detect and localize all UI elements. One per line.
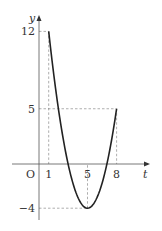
y-tick-labels: 125−4 <box>19 25 35 215</box>
x-axis-label: t <box>143 168 148 181</box>
y-tick-label: −4 <box>19 202 35 215</box>
x-axis-arrow-icon <box>144 162 150 167</box>
x-tick-label: 5 <box>84 168 91 181</box>
x-tick-label: 8 <box>113 168 120 181</box>
series-line-curve <box>49 31 117 208</box>
guide-lines <box>39 31 117 208</box>
y-tick-label: 12 <box>21 25 35 38</box>
y-tick-label: 5 <box>28 103 35 116</box>
y-axis-arrow-icon <box>37 15 42 21</box>
chart: y t O 158 125−4 <box>0 0 162 231</box>
y-axis-label: y <box>28 12 36 25</box>
x-tick-labels: 158 <box>45 168 120 181</box>
origin-label: O <box>26 168 35 181</box>
x-tick-label: 1 <box>45 168 52 181</box>
